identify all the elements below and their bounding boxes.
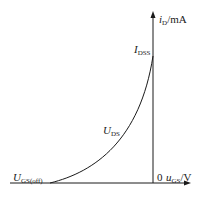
idss-label: IDSS bbox=[134, 44, 151, 57]
y-axis-arrow-icon bbox=[151, 11, 156, 18]
origin-label: 0 bbox=[157, 172, 163, 183]
diagram-canvas bbox=[0, 0, 201, 197]
ugs-off-label: UGS(off) bbox=[13, 172, 43, 185]
x-axis-label: uGS/V bbox=[166, 172, 191, 185]
transfer-curve bbox=[50, 56, 153, 183]
uds-label: UDS bbox=[103, 125, 120, 138]
y-axis-label: iD/mA bbox=[159, 14, 187, 27]
